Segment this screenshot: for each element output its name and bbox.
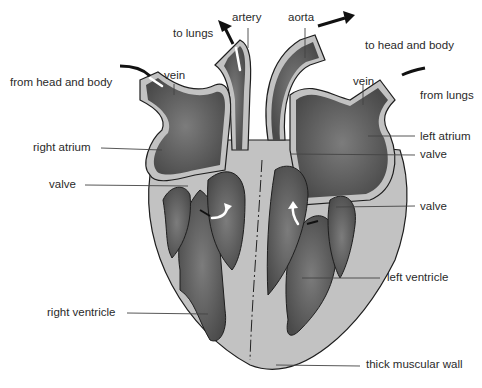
label-thick-muscular-wall: thick muscular wall bbox=[366, 358, 463, 371]
label-to-head-and-body: to head and body bbox=[365, 39, 454, 52]
label-from-head-and-body: from head and body bbox=[10, 76, 112, 89]
label-valve-right: valve bbox=[420, 200, 447, 213]
label-from-lungs: from lungs bbox=[420, 89, 474, 102]
label-valve-top-right: valve bbox=[420, 148, 447, 161]
label-left-ventricle: left ventricle bbox=[387, 271, 448, 284]
label-vein-left: vein bbox=[164, 69, 185, 82]
label-right-atrium: right atrium bbox=[33, 141, 91, 154]
heart-diagram: to lungs artery aorta to head and body f… bbox=[0, 0, 482, 388]
label-left-atrium: left atrium bbox=[420, 130, 471, 143]
heart-illustration bbox=[0, 0, 482, 388]
label-aorta: aorta bbox=[288, 11, 314, 24]
label-vein-right: vein bbox=[353, 75, 374, 88]
label-to-lungs: to lungs bbox=[173, 27, 213, 40]
label-right-ventricle: right ventricle bbox=[47, 306, 115, 319]
label-valve-left: valve bbox=[49, 178, 76, 191]
label-artery: artery bbox=[232, 11, 261, 24]
